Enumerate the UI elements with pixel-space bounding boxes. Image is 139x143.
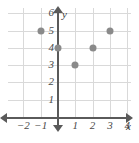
gridline-horizontal — [8, 48, 131, 49]
y-tick-label: 6 — [42, 7, 54, 18]
x-tick-label: 2 — [85, 120, 101, 131]
gridline-vertical — [23, 8, 24, 118]
gridline-horizontal — [8, 13, 131, 14]
y-axis-arrow-down-icon — [53, 125, 63, 132]
gridline-horizontal — [8, 65, 131, 66]
gridline-vertical — [110, 8, 111, 118]
gridline-vertical — [127, 8, 128, 118]
y-axis-label: y — [62, 9, 67, 20]
gridline-horizontal — [8, 82, 131, 83]
data-point — [72, 62, 79, 69]
gridline-horizontal — [8, 100, 131, 101]
y-tick-label: 1 — [42, 94, 54, 105]
x-tick-label: 3 — [102, 120, 118, 131]
x-tick-label: −1 — [33, 120, 49, 131]
plot-area — [8, 8, 131, 118]
x-tick-label: 1 — [67, 120, 83, 131]
x-axis-arrow-left-icon — [0, 113, 7, 123]
x-tick-label: −2 — [15, 120, 31, 131]
data-point — [106, 27, 113, 34]
y-tick-label: 2 — [42, 76, 54, 87]
data-point — [55, 44, 62, 51]
y-tick-label: 3 — [42, 59, 54, 70]
gridline-vertical — [93, 8, 94, 118]
x-axis-label: x — [126, 121, 131, 132]
coordinate-plane-scatter-plot: −2−11234 123456 x y — [0, 0, 139, 143]
y-axis — [57, 12, 59, 127]
data-point — [37, 27, 44, 34]
data-point — [89, 44, 96, 51]
y-tick-label: 4 — [42, 42, 54, 53]
